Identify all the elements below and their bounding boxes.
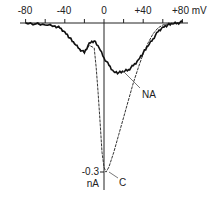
x-axis-ticks	[26, 19, 183, 23]
x-tick-label-m40: -40	[57, 5, 72, 16]
c-annotation: C	[119, 177, 126, 188]
x-tick-label-p40: +40	[135, 5, 152, 16]
na-leader-line	[122, 70, 140, 88]
y-tick-label-value: -0.3	[82, 166, 100, 177]
iv-curve-chart: -80 -40 0 +40 +80 mV -0.3 nA NA C	[0, 0, 217, 199]
x-tick-label-m80: -80	[18, 5, 33, 16]
c-leader-line	[109, 172, 118, 178]
na-annotation: NA	[142, 89, 156, 100]
x-tick-label-p80: +80 mV	[172, 5, 207, 16]
x-tick-label-0: 0	[101, 5, 107, 16]
y-axis-unit-label: nA	[87, 178, 100, 189]
